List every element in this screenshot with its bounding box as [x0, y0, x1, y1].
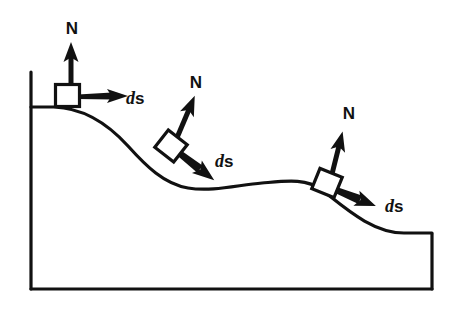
block-1-group [56, 42, 129, 107]
displacement-label-3-s: s [394, 197, 403, 216]
diagram-canvas: N ds N ds N ds [0, 0, 454, 311]
displacement-label-2: ds [215, 151, 233, 171]
normal-label-3: N [343, 104, 355, 123]
arrow-shaft [174, 108, 191, 139]
surface-group [31, 72, 432, 289]
block-1-displacement-arrow [78, 89, 128, 103]
normal-label-2: N [190, 73, 202, 92]
displacement-label-1: ds [126, 88, 144, 108]
arrow-head [180, 93, 202, 117]
displacement-label-1-s: s [135, 89, 144, 108]
block-1-normal-arrow [64, 42, 79, 88]
displacement-label-3: ds [385, 196, 403, 216]
block-3-group [312, 130, 379, 214]
physics-diagram-figure: N ds N ds N ds [0, 0, 454, 311]
normal-label-1: N [66, 19, 78, 38]
arrow-shaft [78, 93, 112, 100]
displacement-label-2-s: s [224, 152, 233, 171]
block-1-body [56, 85, 80, 107]
block-2-group [155, 93, 219, 187]
